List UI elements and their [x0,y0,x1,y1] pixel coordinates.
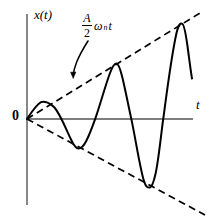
t-axis-label: t [196,98,200,111]
envelope-annotation: A 2 ω n t [82,12,112,39]
origin-label: 0 [12,109,19,123]
envelope-denominator: 2 [83,27,91,40]
envelope-numerator: A [82,12,91,25]
resonance-response-figure: x(t) t 0 A 2 ω n t [0,0,213,223]
lower-envelope-dashed-line [27,119,205,215]
envelope-omega-symbol: ω [94,20,102,32]
envelope-fraction: A 2 [82,12,92,39]
curved-arrow-icon [71,41,88,79]
y-axis-label: x(t) [34,8,52,21]
envelope-omega-subscript: n [103,24,107,32]
envelope-time-symbol: t [108,20,111,32]
